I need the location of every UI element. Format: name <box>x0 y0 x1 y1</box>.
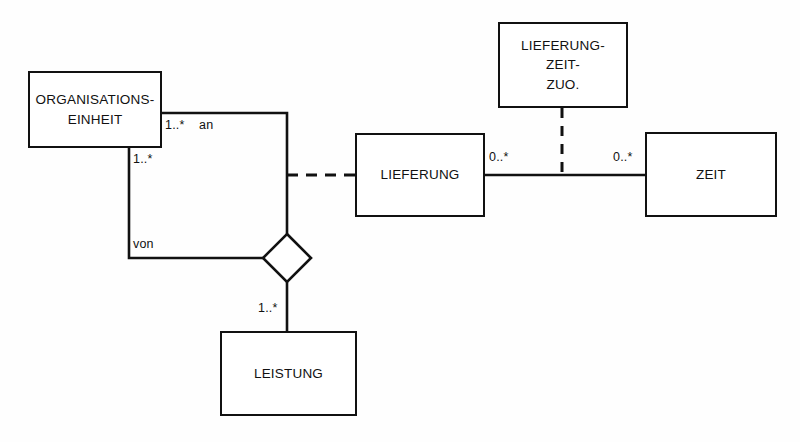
class-box-leistung[interactable]: LEISTUNG <box>220 331 357 416</box>
class-box-zeit[interactable]: ZEIT <box>645 132 777 217</box>
multiplicity-label-an: 1..* <box>165 119 185 132</box>
class-name-zeit: ZEIT <box>692 165 730 185</box>
aggregation-diamond-icon <box>263 234 311 282</box>
multiplicity-label-zeit: 0..* <box>613 151 633 164</box>
class-name-lieferung: LIEFERUNG <box>376 165 463 185</box>
role-label-an: an <box>199 119 213 132</box>
diagram-connector-layer <box>0 0 800 442</box>
multiplicity-label-von-source: 1..* <box>133 153 153 166</box>
class-box-lieferung[interactable]: LIEFERUNG <box>355 133 485 217</box>
class-name-leistung: LEISTUNG <box>250 364 327 384</box>
multiplicity-label-leistung: 1..* <box>258 302 278 315</box>
class-box-lieferung-zeit-zuo[interactable]: LIEFERUNG- ZEIT- ZUO. <box>498 22 628 108</box>
role-label-von: von <box>133 238 154 251</box>
uml-class-diagram-canvas: ORGANISATIONS- EINHEIT LIEFERUNG ZEIT LI… <box>0 0 800 442</box>
class-name-lieferung-zeit-zuo: LIEFERUNG- ZEIT- ZUO. <box>517 36 609 95</box>
class-box-organisationseinheit[interactable]: ORGANISATIONS- EINHEIT <box>28 71 162 148</box>
multiplicity-label-lieferung: 0..* <box>489 151 509 164</box>
class-name-organisationseinheit: ORGANISATIONS- EINHEIT <box>32 90 159 129</box>
